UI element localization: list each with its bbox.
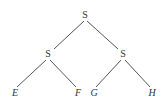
edge-right-H [125,60,150,87]
edge-left-F [50,60,76,87]
tree-nodes: S S S E F G H [11,9,156,98]
tree-edges [17,21,150,87]
node-left: S [45,48,51,59]
edge-root-left [54,21,84,49]
edge-root-right [87,21,118,49]
edge-right-G [96,60,121,87]
edge-left-E [17,60,46,87]
node-right: S [120,48,126,59]
leaf-G: G [90,87,97,98]
leaf-H: H [147,87,156,98]
leaf-E: E [11,87,18,98]
node-root: S [82,9,88,20]
parse-tree-diagram: S S S E F G H [0,0,163,106]
leaf-F: F [74,87,82,98]
